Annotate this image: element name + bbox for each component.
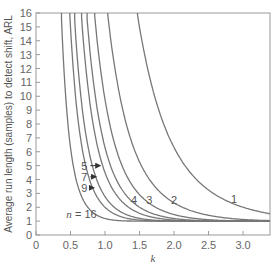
curve-n-3 xyxy=(95,13,270,221)
curve-n-2 xyxy=(108,13,270,221)
curve-n-5 xyxy=(82,13,270,221)
curve-labels: 1234579n = 16 xyxy=(66,160,237,221)
x-tick-label: 1.0 xyxy=(97,239,112,251)
y-tick-label: 5 xyxy=(26,160,32,172)
curve-n-7 xyxy=(75,13,270,221)
x-tick-label: 1.5 xyxy=(132,239,147,251)
x-tick-label: 0.5 xyxy=(63,239,78,251)
y-axis: 012345678910111213141516 xyxy=(20,7,40,241)
x-tick-label: 0 xyxy=(33,239,39,251)
y-tick-label: 9 xyxy=(26,104,32,116)
y-tick-label: 11 xyxy=(21,76,32,88)
y-tick-label: 7 xyxy=(26,132,32,144)
curve-label: n = 16 xyxy=(66,208,96,220)
x-axis: 00.51.01.52.02.53.0 xyxy=(33,231,251,251)
y-tick-label: 1 xyxy=(26,215,32,227)
y-tick-label: 4 xyxy=(26,174,32,186)
curve-label: 1 xyxy=(231,193,237,205)
y-tick-label: 6 xyxy=(26,146,32,158)
y-tick-label: 14 xyxy=(20,35,32,47)
arl-chart: 012345678910111213141516 00.51.01.52.02.… xyxy=(0,0,276,268)
curve-label: 3 xyxy=(146,194,152,206)
y-tick-label: 3 xyxy=(26,187,32,199)
y-tick-label: 10 xyxy=(20,90,32,102)
curve-label: 2 xyxy=(171,194,177,206)
x-axis-title: k xyxy=(151,252,157,264)
x-tick-label: 2.0 xyxy=(166,239,181,251)
curve-n-9 xyxy=(70,13,270,221)
curve-label: 4 xyxy=(131,194,137,206)
y-tick-label: 13 xyxy=(20,49,32,61)
x-tick-label: 3.0 xyxy=(235,239,250,251)
y-tick-label: 12 xyxy=(20,63,32,75)
curve-label: 9 xyxy=(81,182,87,194)
y-tick-label: 8 xyxy=(26,118,32,130)
y-tick-label: 16 xyxy=(20,7,32,19)
y-tick-label: 15 xyxy=(20,21,32,33)
y-tick-label: 2 xyxy=(26,201,32,213)
y-axis-title: Average run length (samples) to detect s… xyxy=(3,15,14,233)
curve-n-1 xyxy=(138,13,271,214)
curves xyxy=(62,13,271,221)
x-tick-label: 2.5 xyxy=(201,239,216,251)
y-tick-label: 0 xyxy=(26,229,32,241)
curve-n-4 xyxy=(87,13,270,221)
